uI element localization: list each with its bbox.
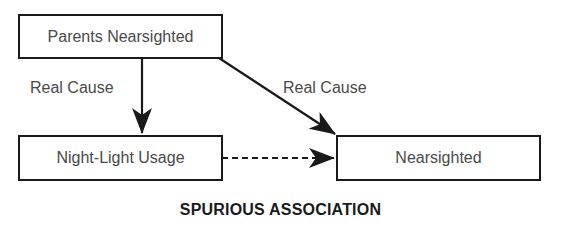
node-label: Nearsighted xyxy=(395,149,481,167)
diagram-title: SPURIOUS ASSOCIATION xyxy=(0,201,561,219)
edge-label-real-cause-left: Real Cause xyxy=(30,79,114,97)
node-nearsighted: Nearsighted xyxy=(336,135,541,181)
node-parents-nearsighted: Parents Nearsighted xyxy=(18,14,223,59)
node-night-light-usage: Night-Light Usage xyxy=(18,135,223,181)
node-label: Night-Light Usage xyxy=(56,149,184,167)
edge-label-real-cause-right: Real Cause xyxy=(283,79,367,97)
node-label: Parents Nearsighted xyxy=(48,28,194,46)
